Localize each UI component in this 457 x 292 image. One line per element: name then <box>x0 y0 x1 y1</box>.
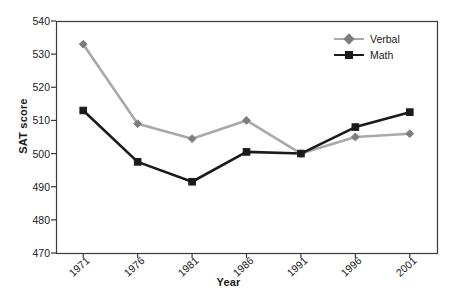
legend-label: Math <box>370 48 393 62</box>
x-tick-label: 1996 <box>339 254 364 279</box>
legend-marker-diamond-icon <box>343 33 354 44</box>
sat-score-line-chart: SAT score Year 470480490500510520530540 … <box>0 0 457 292</box>
x-tick-label: 1981 <box>175 254 200 279</box>
x-tick-label: 1976 <box>121 254 146 279</box>
legend-label: Verbal <box>370 32 400 46</box>
x-tick-label: 1986 <box>230 254 255 279</box>
x-tick-label: 1991 <box>284 254 309 279</box>
legend-swatch-verbal <box>334 33 364 45</box>
chart-legend: VerbalMath <box>334 32 400 64</box>
legend-item-verbal[interactable]: Verbal <box>334 32 400 46</box>
x-tick-label: 1971 <box>67 254 92 279</box>
legend-marker-square-icon <box>345 51 353 59</box>
x-tick-label: 2001 <box>393 254 418 279</box>
legend-item-math[interactable]: Math <box>334 48 400 62</box>
legend-swatch-math <box>334 49 364 61</box>
